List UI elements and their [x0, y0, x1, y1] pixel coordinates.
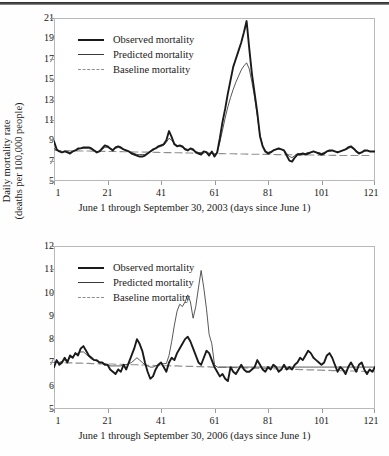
- x-tick-mark: [108, 181, 109, 185]
- x-tick-label: 1: [56, 416, 61, 426]
- legend-swatch-predicted-icon: [76, 50, 106, 60]
- y-axis-title-line1: Daily mortality rate: [1, 0, 13, 18]
- x-tick-mark: [161, 409, 162, 413]
- legend-label-observed: Observed mortality: [113, 262, 194, 274]
- legend-swatch-baseline-icon: [76, 65, 106, 75]
- x-tick-label: 101: [314, 416, 329, 426]
- y-axis-title-2006: Daily mortality rate (deaths per 100,000…: [4, 246, 28, 409]
- x-tick-mark: [215, 409, 216, 413]
- y-axis-title-line1: Daily mortality rate: [1, 76, 13, 246]
- x-tick-label: 81: [263, 188, 273, 198]
- series-line-solid-thin: [54, 63, 375, 158]
- legend-item-baseline: Baseline mortality: [76, 290, 256, 305]
- chart-panel-2006: Daily mortality rate (deaths per 100,000…: [0, 240, 389, 455]
- x-tick-mark: [108, 409, 109, 413]
- x-tick-label: 61: [210, 188, 220, 198]
- x-tick-label: 41: [156, 416, 166, 426]
- x-tick-label: 81: [263, 416, 273, 426]
- x-tick-mark: [268, 181, 269, 185]
- legend-swatch-baseline-icon: [76, 293, 106, 303]
- x-tick-mark: [322, 409, 323, 413]
- y-axis-ticks-2006: 56789101112: [26, 246, 54, 409]
- x-tick-mark: [54, 409, 55, 413]
- x-tick-label: 1: [56, 188, 61, 198]
- x-tick-mark: [215, 181, 216, 185]
- legend-swatch-observed-icon: [76, 35, 106, 45]
- series-line-solid-thick: [54, 337, 375, 381]
- legend-2006: Observed mortality Predicted mortality B…: [76, 260, 256, 305]
- x-axis-title-2006: June 1 through September 30, 2006 (days …: [0, 430, 389, 441]
- x-tick-label: 121: [364, 188, 379, 198]
- x-tick-mark: [161, 181, 162, 185]
- legend-label-predicted: Predicted mortality: [113, 277, 194, 289]
- legend-label-predicted: Predicted mortality: [113, 49, 194, 61]
- legend-label-baseline: Baseline mortality: [113, 64, 190, 76]
- plot-area-2003: Observed mortality Predicted mortality B…: [54, 18, 375, 181]
- page-edge-rule: [0, 2, 389, 5]
- legend-swatch-predicted-icon: [76, 278, 106, 288]
- chart-panel-2003: Daily mortality rate (deaths per 100,000…: [0, 12, 389, 227]
- legend-item-predicted: Predicted mortality: [76, 47, 256, 62]
- x-tick-mark: [374, 409, 375, 413]
- x-tick-label: 101: [314, 188, 329, 198]
- legend-item-predicted: Predicted mortality: [76, 275, 256, 290]
- y-axis-title-line2: (deaths per 100,000 people): [13, 0, 25, 18]
- x-tick-mark: [322, 181, 323, 185]
- x-axis-ticks-2003: 121416181101121: [54, 186, 375, 200]
- y-axis-title-line2: (deaths per 100,000 people): [13, 76, 25, 246]
- x-tick-label: 21: [103, 416, 113, 426]
- legend-item-observed: Observed mortality: [76, 260, 256, 275]
- x-tick-mark: [268, 409, 269, 413]
- x-tick-label: 41: [156, 188, 166, 198]
- x-tick-mark: [374, 181, 375, 185]
- x-axis-title-2003: June 1 through September 30, 2003 (days …: [0, 202, 389, 213]
- legend-label-baseline: Baseline mortality: [113, 292, 190, 304]
- figure-page: Daily mortality rate (deaths per 100,000…: [0, 0, 389, 456]
- legend-item-observed: Observed mortality: [76, 32, 256, 47]
- legend-swatch-observed-icon: [76, 263, 106, 273]
- x-axis-ticks-2006: 121416181101121: [54, 414, 375, 428]
- x-tick-mark: [54, 181, 55, 185]
- legend-2003: Observed mortality Predicted mortality B…: [76, 32, 256, 77]
- y-axis-ticks-2003: 579111315171921: [26, 18, 54, 181]
- x-tick-label: 61: [210, 416, 220, 426]
- x-tick-label: 21: [103, 188, 113, 198]
- legend-label-observed: Observed mortality: [113, 34, 194, 46]
- x-tick-label: 121: [364, 416, 379, 426]
- legend-item-baseline: Baseline mortality: [76, 62, 256, 77]
- plot-area-2006: Observed mortality Predicted mortality B…: [54, 246, 375, 409]
